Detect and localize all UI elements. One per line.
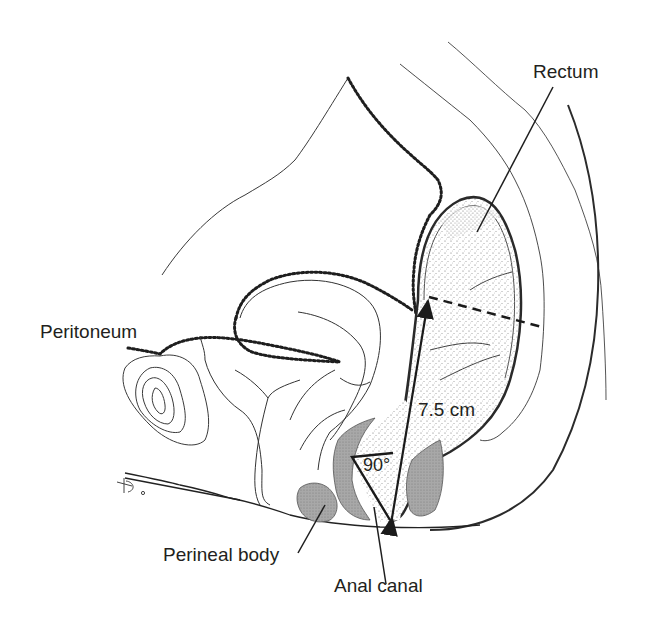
label-rectum: Rectum [533, 62, 598, 81]
label-angle: 90° [363, 456, 390, 474]
label-anal-canal: Anal canal [334, 576, 423, 595]
peritoneum-dotted-line [128, 78, 441, 362]
bladder [123, 355, 209, 445]
pelvic-organs-outlines [200, 280, 380, 505]
pelvis-sagittal-illustration [0, 0, 671, 631]
anatomy-diagram: Rectum Peritoneum Perineal body Anal can… [0, 0, 671, 631]
rectum-leader [477, 87, 553, 232]
label-distance: 7.5 cm [418, 400, 475, 419]
label-peritoneum: Peritoneum [40, 322, 137, 341]
abdominal-wall-outline [162, 78, 348, 275]
label-perineal-body: Perineal body [163, 545, 279, 564]
